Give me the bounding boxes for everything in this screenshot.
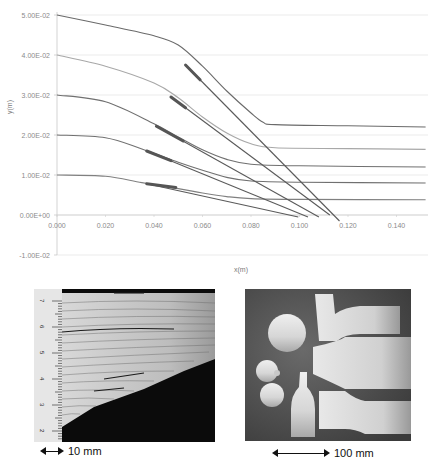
- x-tick-label: 0.080: [242, 222, 260, 229]
- layered-cross-section-photo: 7 6 5 4 3 2: [34, 289, 215, 442]
- highlight-segment: [186, 65, 201, 80]
- spun-parts-photo: [245, 289, 411, 441]
- tangent-lines: [147, 65, 340, 221]
- y-tick-label: 5.00E-02: [22, 12, 51, 19]
- tangent-line: [171, 97, 330, 215]
- y-axis-label: y(m): [6, 100, 14, 114]
- highlight-segment: [171, 97, 186, 108]
- scale-bar-right: 100 mm: [272, 447, 374, 459]
- profile-curve: [57, 15, 426, 127]
- y-tick-label: 4.00E-02: [22, 52, 51, 59]
- x-tick-label: 0.000: [48, 222, 66, 229]
- y-tick-label: 2.00E-02: [22, 132, 51, 139]
- tangent-line: [147, 184, 299, 217]
- double-arrow-icon: [272, 448, 330, 458]
- x-tick-label: 0.040: [145, 222, 163, 229]
- x-tick-label: 0.120: [339, 222, 357, 229]
- y-tick-label: -1.00E-02: [19, 252, 50, 259]
- profile-curve: [57, 135, 426, 183]
- highlight-segment: [147, 151, 171, 161]
- y-tick-label: 1.00E-02: [22, 172, 51, 179]
- x-tick-label: 0.140: [388, 222, 406, 229]
- scale-bar-left: 10 mm: [40, 445, 102, 457]
- y-tick-label: 3.00E-02: [22, 92, 51, 99]
- x-tick-label: 0.100: [291, 222, 309, 229]
- y-tick-label: 0.00E+00: [20, 212, 50, 219]
- double-arrow-icon: [40, 446, 64, 456]
- x-tick-label: 0.060: [194, 222, 212, 229]
- x-axis-label: x(m): [234, 266, 248, 274]
- axes: [57, 12, 428, 255]
- profile-curve: [57, 95, 426, 167]
- chart: 5.00E-024.00E-023.00E-022.00E-021.00E-02…: [0, 0, 432, 280]
- x-tick-labels: 0.0000.0200.0400.0600.0800.1000.1200.140: [48, 215, 405, 229]
- highlight-segment: [156, 126, 183, 141]
- x-tick-label: 0.020: [97, 222, 115, 229]
- scale-label-right: 100 mm: [334, 447, 374, 459]
- scale-label-left: 10 mm: [68, 445, 102, 457]
- profile-curve: [57, 175, 426, 200]
- gridlines: [57, 15, 428, 255]
- profile-curves: [57, 15, 426, 200]
- highlight-segment: [147, 184, 176, 188]
